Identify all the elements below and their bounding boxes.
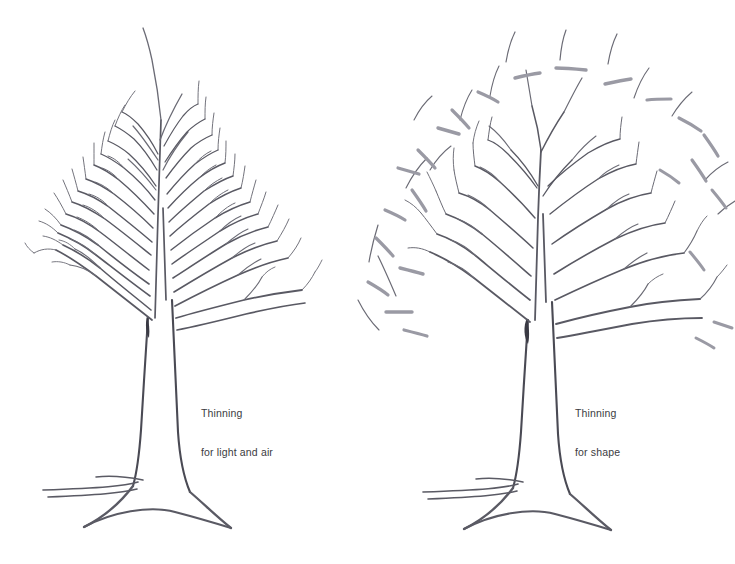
diagram-canvas: Thinning for light and air Thinning for …	[0, 0, 735, 564]
right-tree-trunk	[513, 302, 570, 494]
right-tree-floating-twigs	[358, 30, 735, 330]
caption-right-line1: Thinning	[575, 407, 620, 420]
caption-right-line2: for shape	[575, 446, 620, 459]
caption-left-line1: Thinning	[201, 407, 273, 420]
caption-right: Thinning for shape	[575, 381, 620, 485]
pruning-diagram-illustration	[0, 0, 735, 564]
right-tree-leader	[489, 70, 596, 320]
left-tree-left-branches	[25, 91, 158, 320]
right-tree-root-flare	[423, 478, 611, 530]
left-tree-right-branches	[164, 81, 322, 330]
right-tree-right-branches	[548, 117, 727, 338]
right-tree	[358, 30, 735, 530]
cut-marks	[368, 68, 732, 348]
left-tree	[25, 28, 322, 528]
right-tree-left-branches	[405, 117, 537, 322]
caption-left: Thinning for light and air	[201, 381, 273, 485]
caption-left-line2: for light and air	[201, 446, 273, 459]
